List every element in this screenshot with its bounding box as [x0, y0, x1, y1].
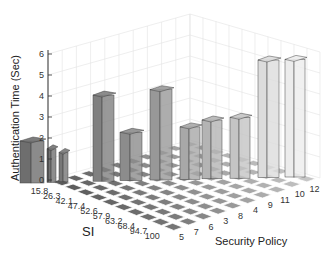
y-tick-label: 0	[39, 175, 44, 185]
bar-63.2-9	[180, 123, 202, 179]
floor-tile	[116, 194, 135, 201]
policy-tick-label: 11	[280, 195, 289, 205]
floor-tile	[143, 194, 162, 201]
floor-tile	[181, 208, 200, 215]
si-tick-label: 100	[145, 231, 160, 241]
policy-tick-label: 4	[253, 205, 258, 215]
floor-tile	[223, 202, 242, 209]
policy-axis-label: Security Policy	[215, 235, 288, 247]
floor-tile	[227, 183, 246, 189]
bar-68.4-11	[202, 116, 224, 179]
bars	[20, 55, 307, 183]
floor-tile	[183, 198, 202, 205]
y-tick-label: 2	[39, 133, 44, 143]
floor-tile	[282, 181, 301, 187]
floor-tile	[64, 184, 83, 191]
floor-tile	[179, 218, 198, 225]
floor-tile	[154, 208, 173, 215]
bar-57.9-4	[150, 86, 174, 180]
floor-tile	[197, 193, 216, 200]
policy-tick-label: 9	[268, 200, 273, 210]
floor-tile	[254, 182, 273, 188]
floor-tile	[269, 177, 288, 183]
y-tick-label: 5	[39, 70, 44, 80]
bar-100-12	[285, 55, 307, 177]
floor-tile	[118, 185, 137, 192]
floor-tile	[214, 179, 233, 185]
authentication-time-3d-bar-chart: 0123456 Authentication Time (Sec) 15.826…	[0, 0, 336, 263]
floor-tile	[212, 188, 231, 195]
floor-tile	[195, 203, 214, 210]
floor-tile	[199, 184, 218, 190]
bar-52.6-8	[120, 128, 144, 180]
policy-tick-label: 3	[223, 216, 228, 226]
floor-tile	[156, 199, 175, 206]
y-tick-label: 3	[39, 112, 44, 122]
policy-tick-label: 10	[295, 189, 305, 199]
floor-tile	[170, 194, 189, 201]
floor-tile	[114, 204, 133, 211]
floor-tile	[166, 213, 185, 220]
floor-tile	[239, 187, 258, 194]
floor-tile	[241, 178, 260, 184]
bar-26.3-7	[47, 145, 58, 183]
floor-tile	[160, 180, 179, 186]
floor-tile	[238, 197, 257, 204]
floor-tile	[131, 189, 150, 196]
floor-tile	[168, 203, 187, 210]
floor-tile	[185, 189, 204, 196]
policy-tick-label: 8	[238, 211, 243, 221]
floor-tile	[187, 180, 206, 186]
floor-tile	[151, 218, 170, 225]
floor-tile	[145, 185, 164, 192]
policy-tick-label: 6	[208, 222, 213, 232]
si-axis-label: SI	[82, 224, 94, 239]
floor-tile	[267, 186, 286, 192]
floor-tile	[132, 180, 151, 186]
floor-tile	[158, 189, 177, 196]
floor-tile	[127, 209, 146, 216]
bar-100-12	[258, 56, 281, 178]
floor-tile	[210, 198, 229, 205]
floor-tile	[225, 193, 244, 200]
floor-tile	[77, 189, 96, 196]
bar-47.4-3	[93, 91, 116, 181]
floor-tile	[172, 184, 191, 190]
y-tick-label: 6	[39, 49, 44, 59]
y-tick-label: 4	[39, 91, 44, 101]
y-tick-label: 1	[39, 154, 44, 164]
floor-tile	[129, 199, 148, 206]
floor-tile	[141, 204, 160, 211]
floor-tile	[252, 192, 271, 199]
floor-tile	[102, 199, 121, 206]
policy-tick-label: 12	[310, 184, 320, 194]
floor-tile	[104, 189, 123, 196]
y-axis-label: Authentication Time (Sec)	[9, 55, 21, 181]
floor-tile	[164, 223, 183, 230]
floor-tile	[89, 194, 108, 201]
floor-tile	[66, 175, 85, 181]
bar-94.7-10	[230, 113, 252, 178]
policy-tick-label: 7	[194, 227, 199, 237]
floor-tile	[139, 213, 158, 220]
floor-tile	[193, 213, 212, 220]
floor-tile	[208, 207, 227, 214]
floor-tile	[91, 184, 110, 191]
policy-tick-label: 5	[179, 232, 184, 242]
